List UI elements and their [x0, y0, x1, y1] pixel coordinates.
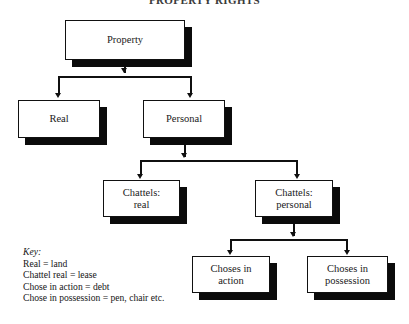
edge-property-bus	[58, 76, 191, 78]
node-property[interactable]: Property	[65, 20, 185, 60]
node-choses-action-line1: Choses in	[210, 263, 251, 274]
node-property-label: Property	[105, 34, 145, 46]
key-heading: Key:	[23, 246, 164, 258]
node-choses-in-action-label: Choses in action	[208, 263, 253, 287]
edge-personal-arrowhead	[187, 93, 193, 98]
node-chattels-personal-line2: personal	[276, 199, 312, 210]
node-choses-in-action[interactable]: Choses in action	[192, 256, 270, 293]
edge-personal-stem-arrowhead	[181, 153, 187, 158]
node-chattels-real-line1: Chattels:	[123, 187, 160, 198]
key-entry-real: Real = land	[23, 258, 164, 270]
node-real-label: Real	[47, 113, 70, 125]
edge-chattels-real-arrowhead	[137, 174, 143, 179]
edge-choses-possession-arrowhead	[344, 250, 350, 255]
node-choses-possession-line1: Choses in	[327, 263, 368, 274]
key-entry-chattel-real: Chattel real = lease	[23, 269, 164, 281]
edge-chattels-personal-stem-arrowhead	[290, 232, 296, 237]
diagram-page: PROPERTY RIGHTS Property Real Personal C…	[0, 0, 409, 324]
key-entry-chose-in-action: Chose in action = debt	[23, 281, 164, 293]
key-legend: Key: Real = land Chattel real = lease Ch…	[23, 246, 164, 304]
edge-real-arrowhead	[55, 93, 61, 98]
node-choses-possession-line2: possession	[325, 275, 370, 286]
edge-personal-bus	[140, 160, 298, 162]
key-entry-chose-in-possession: Chose in possession = pen, chair etc.	[23, 292, 164, 304]
edge-property-stem-arrowhead	[121, 68, 127, 73]
node-choses-in-possession[interactable]: Choses in possession	[307, 256, 388, 293]
node-personal[interactable]: Personal	[143, 100, 225, 138]
node-chattels-personal[interactable]: Chattels: personal	[255, 180, 333, 217]
node-chattels-real-label: Chattels: real	[121, 187, 162, 211]
node-chattels-personal-line1: Chattels:	[275, 187, 312, 198]
node-choses-action-line2: action	[218, 275, 244, 286]
edge-choses-bus	[230, 239, 348, 241]
edge-choses-action-arrowhead	[227, 250, 233, 255]
node-chattels-real-line2: real	[134, 199, 150, 210]
edge-chattels-personal-arrowhead	[294, 174, 300, 179]
page-title: PROPERTY RIGHTS	[0, 0, 409, 6]
node-chattels-real[interactable]: Chattels: real	[103, 180, 180, 217]
node-choses-in-possession-label: Choses in possession	[323, 263, 372, 287]
node-personal-label: Personal	[164, 113, 204, 125]
node-real[interactable]: Real	[18, 100, 100, 138]
node-chattels-personal-label: Chattels: personal	[273, 187, 314, 211]
